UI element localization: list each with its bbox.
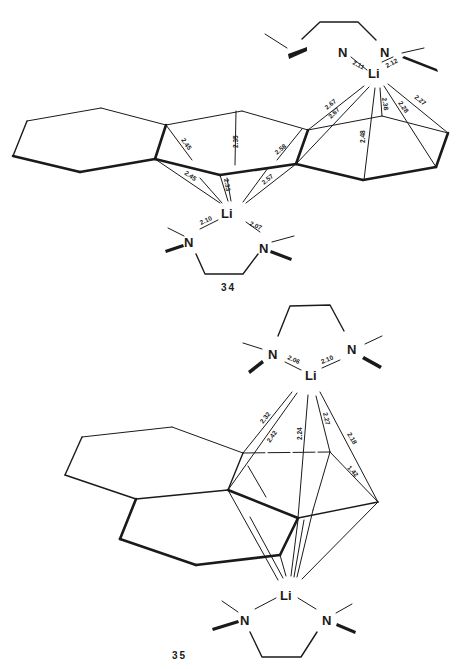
methyl-wedge [336,623,356,634]
distance-label: 2.32 [258,410,272,425]
bond [155,125,166,159]
bond [436,133,448,167]
distance-label: 2.18 [346,431,359,446]
nitrogen-atom: N [184,235,193,250]
bond [242,111,308,130]
nitrogen-atom: N [322,613,331,628]
bond [120,539,196,565]
methyl-bond [222,601,238,612]
bond [166,111,242,125]
li-contact [280,555,286,576]
bond [280,518,298,555]
methyl-bond [243,343,262,349]
methyl-wedge [402,56,438,72]
distance-label: 2.58 [273,142,287,156]
distance-label: 2.11 [352,59,366,71]
nitrogen-atom: N [240,613,249,628]
li-contact [228,393,297,490]
methyl-bond [336,604,352,613]
bond [80,159,155,172]
methyl-wedge [212,620,239,631]
back-ring-35 [65,427,243,499]
li-contact [298,395,308,518]
bond [65,475,136,499]
li-contact [200,178,222,203]
nitrogen-atom: N [347,342,356,357]
distance-label: 2.48 [359,130,366,143]
methyl-wedge [270,250,292,261]
lithium-atom: Li [368,66,380,81]
compound-label: 34 [221,282,236,293]
li-contact [250,517,283,578]
n-li-bond [255,598,276,609]
top-li-contacts-34: 2.67 2.67 2.48 2.38 2.28 2.27 [296,84,448,180]
lithium-atom: Li [221,206,233,221]
methyl-wedge [165,244,184,253]
distance-label: 2.10 [198,214,213,226]
bottom-li-contacts-34: 2.45 2.45 2.35 2.33 2.58 2.57 [155,111,302,203]
distance-label: 2.28 [397,100,410,115]
compound-label: 35 [172,650,187,661]
methyl-wedge [362,356,382,369]
lithium-atom: Li [280,588,292,603]
bond [296,164,363,180]
methyl-wedge [248,360,264,374]
ethylene-bridge [196,254,258,274]
lithium-atom: Li [305,368,317,383]
bond [82,427,172,437]
tmeda-ligand-bottom-35: Li N N 35 [172,588,356,661]
tmeda-ligand-top-35: N N Li 2.06 2.10 [243,305,382,383]
bond [101,108,166,125]
bond [136,490,228,499]
li-contact [384,86,436,167]
bond [13,156,80,172]
tmeda-ligand-bottom-34: Li N N 2.10 2.07 34 [165,206,294,293]
front-ring-35 [120,490,298,565]
distance-label: 2.27 [413,93,428,107]
li-contact [302,502,378,579]
methyl-bond [365,336,382,344]
structure-diagram: N N Li 2.11 2.12 [0,0,458,669]
distance-label: 2.24 [296,427,303,440]
ethylene-bridge [278,305,344,336]
nitrogen-atom: N [259,241,268,256]
methyl-bond [168,228,184,236]
li-contact [248,466,266,497]
benzo-ring-34 [13,108,166,172]
bond [120,499,136,539]
compound-34: N N Li 2.11 2.12 [13,22,448,293]
methyl-bond [402,48,424,53]
li-contact [243,392,292,453]
distance-label: 2.57 [260,172,274,186]
bond [296,130,308,164]
distance-label: 2.45 [180,137,193,152]
bond [13,121,27,156]
li-contact [228,490,278,580]
compound-35: N N Li 2.06 2.10 [65,305,382,661]
five-ring-35: 1.42 [243,452,378,518]
bond [27,108,101,121]
bottom-li-contacts-35 [228,466,378,580]
bond [228,490,298,518]
bond [363,167,436,180]
methyl-bond [272,236,294,242]
n-li-bond [298,598,316,609]
distance-label: 2.42 [265,429,278,444]
nitrogen-atom: N [268,347,277,362]
bond [172,427,243,453]
ethylene-bridge [302,22,376,40]
li-contact [155,159,220,203]
bond [243,452,330,453]
tmeda-ligand-top-34: N N Li 2.11 2.12 [265,22,438,81]
distance-label: 2.35 [232,135,239,148]
bond [65,437,82,475]
li-contact [313,452,330,510]
nitrogen-atom: N [338,45,347,60]
nitrogen-atom: N [380,45,389,60]
methyl-bond [265,34,287,48]
methyl-wedge [288,47,307,59]
distance-label: 2.38 [381,97,390,111]
bond [298,502,378,518]
ethylene-bridge [250,632,317,657]
right-ring-34 [296,116,448,180]
